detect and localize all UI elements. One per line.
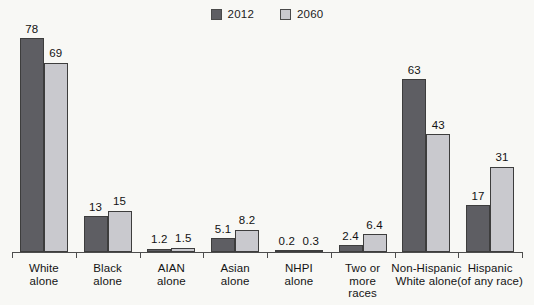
bar-slot: 6.4 bbox=[363, 30, 387, 252]
bar-group: 6343 bbox=[395, 30, 459, 252]
bar-2060[interactable] bbox=[363, 234, 387, 252]
bar-slot: 31 bbox=[490, 30, 514, 252]
x-axis-tick bbox=[12, 252, 13, 258]
legend-item-2012: 2012 bbox=[211, 9, 254, 21]
x-axis-tick bbox=[395, 252, 396, 258]
bar-group: 1315 bbox=[76, 30, 140, 252]
bar-2012[interactable] bbox=[402, 79, 426, 252]
bar-value-label: 31 bbox=[482, 152, 522, 164]
bar-group: 2.46.4 bbox=[331, 30, 395, 252]
bar-value-label: 6.4 bbox=[355, 220, 395, 232]
bar-group: 7869 bbox=[12, 30, 76, 252]
x-axis-tick bbox=[331, 252, 332, 258]
legend-swatch-2012 bbox=[211, 9, 222, 20]
bar-slot: 43 bbox=[426, 30, 450, 252]
plot-area: 786913151.21.55.18.20.20.32.46.463431731 bbox=[12, 30, 522, 252]
x-axis-tick bbox=[522, 252, 523, 258]
bar-slot: 15 bbox=[108, 30, 132, 252]
x-axis-tick bbox=[267, 252, 268, 258]
x-axis-tick bbox=[203, 252, 204, 258]
legend-swatch-2060 bbox=[280, 9, 291, 20]
bar-2012[interactable] bbox=[339, 245, 363, 252]
bar-2012[interactable] bbox=[211, 238, 235, 252]
bar-slot: 78 bbox=[20, 30, 44, 252]
bar-value-label: 43 bbox=[418, 120, 458, 132]
bar-2060[interactable] bbox=[44, 63, 68, 252]
legend-item-2060: 2060 bbox=[280, 9, 323, 21]
bar-2060[interactable] bbox=[108, 211, 132, 252]
legend-label-2060: 2060 bbox=[297, 9, 323, 21]
bar-value-label: 8.2 bbox=[227, 215, 267, 227]
bar-2012[interactable] bbox=[84, 216, 108, 252]
bar-chart: 2012 2060 786913151.21.55.18.20.20.32.46… bbox=[0, 0, 534, 305]
bar-group: 1.21.5 bbox=[140, 30, 204, 252]
x-axis-label-8: Hispanic(of any race) bbox=[450, 262, 530, 287]
bar-group: 5.18.2 bbox=[203, 30, 267, 252]
bar-2012[interactable] bbox=[466, 205, 490, 252]
bar-value-label: 1.5 bbox=[163, 233, 203, 245]
x-axis-tick bbox=[76, 252, 77, 258]
chart-legend: 2012 2060 bbox=[0, 9, 534, 21]
bar-slot: 1.2 bbox=[147, 30, 171, 252]
bar-slot: 0.3 bbox=[299, 30, 323, 252]
bar-slot: 0.2 bbox=[275, 30, 299, 252]
bar-2060[interactable] bbox=[426, 134, 450, 252]
bar-slot: 13 bbox=[84, 30, 108, 252]
bar-slot: 63 bbox=[402, 30, 426, 252]
bar-group: 0.20.3 bbox=[267, 30, 331, 252]
x-axis-tick bbox=[140, 252, 141, 258]
bar-2012[interactable] bbox=[20, 38, 44, 252]
bar-value-label: 0.3 bbox=[291, 236, 331, 248]
bar-value-label: 15 bbox=[100, 196, 140, 208]
bar-slot: 2.4 bbox=[339, 30, 363, 252]
bar-slot: 17 bbox=[466, 30, 490, 252]
bar-group: 1731 bbox=[458, 30, 522, 252]
bar-2060[interactable] bbox=[235, 230, 259, 252]
bar-2060[interactable] bbox=[490, 167, 514, 252]
x-axis-tick bbox=[458, 252, 459, 258]
bar-slot: 1.5 bbox=[171, 30, 195, 252]
legend-label-2012: 2012 bbox=[228, 9, 254, 21]
bar-slot: 69 bbox=[44, 30, 68, 252]
bar-slot: 8.2 bbox=[235, 30, 259, 252]
bar-value-label: 69 bbox=[36, 48, 76, 60]
